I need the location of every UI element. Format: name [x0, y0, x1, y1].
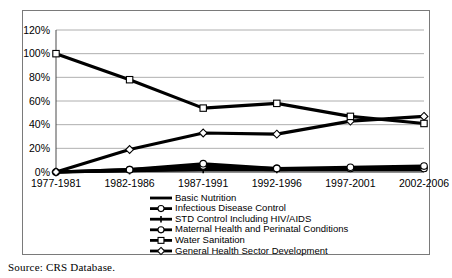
- data-point-marker: [157, 247, 164, 254]
- data-point-marker: [158, 206, 164, 212]
- legend: Basic NutritionInfectious Disease Contro…: [150, 192, 348, 256]
- legend-item-3[interactable]: Maternal Health and Perinatal Conditions: [150, 223, 348, 234]
- data-point-marker: [126, 166, 133, 173]
- data-point-marker: [126, 77, 132, 83]
- data-point-marker: [200, 105, 206, 111]
- legend-item-5[interactable]: General Health Sector Development: [150, 245, 328, 256]
- legend-label: Infectious Disease Control: [175, 202, 286, 213]
- y-axis-tick-label: 20%: [29, 142, 50, 154]
- x-axis-tick-label: 1982-1986: [104, 177, 154, 189]
- legend-label: STD Control Including HIV/AIDS: [175, 213, 311, 224]
- data-point-marker: [158, 227, 164, 233]
- legend-label: Water Sanitation: [175, 234, 245, 245]
- legend-item-0[interactable]: Basic Nutrition: [150, 192, 236, 203]
- data-point-marker: [274, 100, 280, 106]
- legend-item-1[interactable]: Infectious Disease Control: [150, 202, 286, 213]
- y-axis-tick-label: 80%: [29, 71, 50, 83]
- data-point-marker: [347, 113, 353, 119]
- legend-label: Basic Nutrition: [175, 192, 236, 203]
- legend-label: Maternal Health and Perinatal Conditions: [175, 223, 348, 234]
- source-note: Source: CRS Database.: [8, 261, 115, 273]
- legend-item-4[interactable]: Water Sanitation: [150, 234, 245, 245]
- data-point-marker: [347, 164, 354, 171]
- chart-canvas: 0%20%40%60%80%100%120%1977-19811982-1986…: [0, 0, 452, 278]
- data-point-marker: [53, 50, 59, 56]
- y-axis-tick-label: 60%: [29, 95, 50, 107]
- x-axis-tick-label: 1997-2001: [325, 177, 375, 189]
- y-axis-tick-label: 120%: [23, 24, 50, 36]
- legend-item-2[interactable]: STD Control Including HIV/AIDS: [150, 213, 311, 224]
- x-axis-labels: 1977-19811982-19861987-19911992-19961997…: [31, 177, 449, 189]
- x-axis-tick-label: 2002-2006: [399, 177, 449, 189]
- data-point-marker: [200, 160, 207, 167]
- y-axis-tick-label: 40%: [29, 118, 50, 130]
- legend-label: General Health Sector Development: [175, 245, 328, 256]
- data-point-marker: [421, 120, 427, 126]
- x-axis-tick-label: 1977-1981: [31, 177, 81, 189]
- figure-container: 0%20%40%60%80%100%120%1977-19811982-1986…: [0, 0, 452, 278]
- line-chart: 0%20%40%60%80%100%120%1977-19811982-1986…: [0, 0, 452, 278]
- y-axis-tick-label: 0%: [35, 166, 50, 178]
- data-point-marker: [421, 163, 428, 170]
- data-point-marker: [158, 237, 164, 243]
- x-axis-tick-label: 1992-1996: [252, 177, 302, 189]
- x-axis-tick-label: 1987-1991: [178, 177, 228, 189]
- data-point-marker: [274, 165, 281, 172]
- y-axis-tick-label: 100%: [23, 47, 50, 59]
